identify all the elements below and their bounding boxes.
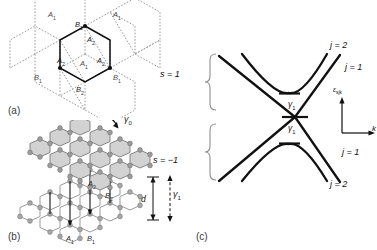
band-curves <box>219 54 340 182</box>
panel-c-tag: (c) <box>196 232 208 242</box>
site-label-a1-lower-layer: A1 <box>66 235 74 245</box>
interlayer-distance-arrow <box>147 177 159 220</box>
branch-label-s-equals-minus-1: s = −1 <box>153 156 178 165</box>
hopping-label-gamma1-panel-b: γ1 <box>173 190 181 201</box>
site-label-b1-lower-left: B1 <box>34 74 42 84</box>
brace-s-equals-minus-1 <box>205 124 216 180</box>
panel-b-tag: (b) <box>8 232 20 242</box>
band-label-j-equals-1-upper: j = 1 <box>345 63 362 72</box>
site-label-b2-bottom: B2 <box>76 86 84 96</box>
site-label-a2-upper-centre: A2 <box>87 36 95 46</box>
site-label-b1-lower-layer: B1 <box>87 235 95 245</box>
site-label-a1-outer-left: A1 <box>48 11 56 21</box>
site-label-b1-lower-right: B1 <box>113 74 121 84</box>
axis-label-momentum: k <box>372 125 376 133</box>
site-label-a1-outer-right: A1 <box>113 11 121 21</box>
band-label-j-equals-1-lower: j = 1 <box>342 148 359 157</box>
site-label-b2-upper-layer: B2 <box>105 192 113 202</box>
hopping-label-gamma0: γ0 <box>124 115 132 126</box>
brace-s-equals-1 <box>205 54 216 110</box>
site-label-a2-mid-right: A2 <box>97 57 105 67</box>
interlayer-distance-label: d <box>141 195 146 204</box>
site-label-a2-upper-layer: A2 <box>88 180 96 190</box>
gap-label-gamma1-upper: γ1 <box>288 100 295 111</box>
panel-a-lattice-drawing <box>0 0 190 118</box>
figure-canvas: A1 A1 B1 A2 A2 A1 A2 B1 B1 B2 (a) <box>0 0 377 250</box>
site-label-b1-top: B1 <box>75 21 83 31</box>
band-label-j-equals-2-bottom: j = 2 <box>330 180 347 189</box>
site-label-a1-centre: A1 <box>80 60 88 70</box>
axis-key-arrowheads <box>339 97 375 136</box>
site-label-a2-mid-left: A2 <box>57 57 65 67</box>
branch-label-s-equals-1: s = 1 <box>160 70 180 79</box>
axis-key <box>342 100 372 133</box>
band-label-j-equals-2-top: j = 2 <box>330 41 347 50</box>
gap-label-gamma1-lower: γ1 <box>288 124 295 135</box>
panel-a-tag: (a) <box>8 106 20 116</box>
axis-label-energy: εsjk <box>333 86 342 96</box>
panel-c-band-structure-drawing <box>190 0 377 250</box>
